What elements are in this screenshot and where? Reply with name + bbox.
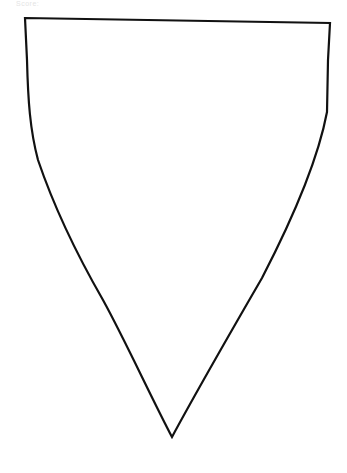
shield-outline (25, 18, 330, 437)
shield-shape (0, 0, 347, 473)
